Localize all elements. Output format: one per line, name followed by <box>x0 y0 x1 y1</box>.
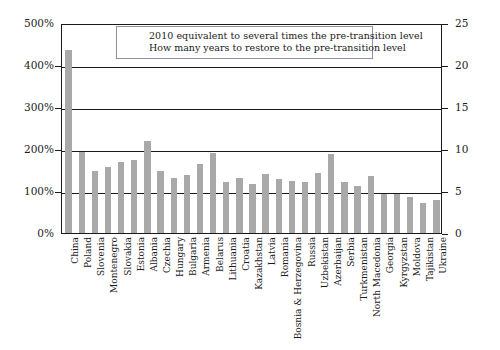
x-axis-label: Tajikistan <box>426 237 435 281</box>
y-axis-right-tick <box>442 66 448 67</box>
x-axis-label: Czechia <box>163 237 172 273</box>
x-axis-label: Belarus <box>216 237 225 272</box>
y-axis-right-tick-label: 25 <box>455 17 468 29</box>
bar <box>197 164 203 233</box>
x-axis-label: China <box>71 237 80 264</box>
x-axis-label: Bulgaria <box>189 237 198 276</box>
x-axis-label: Turkmenistan <box>360 237 369 301</box>
x-axis-label: Kazakhstan <box>255 237 264 290</box>
bar <box>315 173 321 233</box>
bar <box>92 171 98 233</box>
bar <box>171 178 177 233</box>
x-axis-label: Albania <box>150 237 159 272</box>
x-axis-label: Romania <box>281 237 290 277</box>
y-axis-right-tick <box>442 192 448 193</box>
x-axis-label: Georgia <box>386 237 395 273</box>
bar <box>65 50 71 233</box>
y-axis-right-tick <box>442 108 448 109</box>
chart-container: 0%100%200%300%400%500% 0510152025 2010 e… <box>0 0 500 350</box>
x-axis-label: Ukraine <box>439 237 448 274</box>
bar <box>381 194 387 233</box>
bar <box>131 160 137 233</box>
y-axis-right-tick <box>442 24 448 25</box>
y-axis-right-tick-label: 10 <box>455 143 468 155</box>
bar <box>105 167 111 233</box>
x-axis-label: North Macedonia <box>373 237 382 317</box>
x-axis-label: Slovakia <box>124 237 133 276</box>
bar <box>157 171 163 233</box>
x-axis-label: Uzbekistan <box>321 237 330 288</box>
bar <box>236 178 242 233</box>
x-axis-label: Estonia <box>137 237 146 271</box>
x-axis-label: Russia <box>308 237 317 267</box>
x-axis-label: Serbia <box>347 237 356 267</box>
annotation-line-1: 2010 equivalent to several times the pre… <box>117 30 372 42</box>
y-axis-right-tick <box>442 234 448 235</box>
y-axis-right-tick-label: 20 <box>455 59 468 71</box>
x-axis-label: Azerbaijan <box>334 237 343 286</box>
bar <box>354 186 360 233</box>
bar <box>407 197 413 233</box>
bar <box>79 152 85 233</box>
bar <box>289 181 295 233</box>
y-axis-right-tick <box>442 150 448 151</box>
bar <box>184 175 190 233</box>
x-axis-label: Armenia <box>202 237 211 276</box>
annotation-line-2: How many years to restore to the pre-tra… <box>117 42 372 54</box>
x-axis-label: Bosnia & Herzegovina <box>294 237 303 339</box>
x-axis-label: Poland <box>84 237 93 268</box>
bar <box>302 182 308 233</box>
x-axis-label: Montenegro <box>110 237 119 293</box>
x-axis-label: Lithuania <box>229 237 238 280</box>
y-axis-right-tick-label: 0 <box>455 227 462 239</box>
x-axis-category-labels: ChinaPolandSloveniaMontenegroSlovakiaEst… <box>61 237 442 347</box>
x-axis-label: Slovenia <box>97 237 106 276</box>
bar <box>433 200 439 233</box>
x-axis-label: Moldova <box>413 237 422 276</box>
bar <box>328 154 334 233</box>
bar <box>249 184 255 233</box>
x-axis-label: Croatia <box>242 237 251 271</box>
bar <box>118 162 124 233</box>
x-axis-label: Hungary <box>176 237 185 277</box>
x-axis-label: Kyrgyzstan <box>400 237 409 288</box>
y-axis-right-tick-label: 15 <box>455 101 468 113</box>
bar <box>262 174 268 233</box>
bar <box>223 182 229 233</box>
bar <box>276 179 282 233</box>
x-axis-label: Latvia <box>268 237 277 265</box>
bar <box>368 176 374 233</box>
y-axis-right-tick-label: 5 <box>455 185 462 197</box>
bar <box>210 153 216 233</box>
bar <box>144 141 150 233</box>
bar <box>341 182 347 233</box>
bar <box>394 194 400 233</box>
bar <box>420 203 426 233</box>
annotation-box: 2010 equivalent to several times the pre… <box>116 26 373 59</box>
